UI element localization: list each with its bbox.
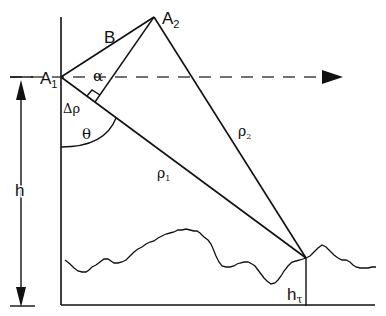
- rho1-line: [61, 77, 306, 258]
- label-delta-rho: Δρ: [63, 101, 80, 116]
- h-arrow-down-icon: [16, 287, 26, 307]
- baseline-B: [61, 17, 154, 77]
- label-rho2: ρ2: [238, 123, 251, 141]
- label-B: B: [104, 28, 115, 47]
- label-rho1: ρ1: [157, 165, 170, 183]
- terrain-profile: [65, 229, 376, 284]
- label-theta: θ: [82, 125, 91, 143]
- label-alpha: α: [93, 67, 103, 85]
- rho2-line: [154, 17, 306, 258]
- dashed-arrowhead-icon: [322, 70, 343, 84]
- h-arrow-up-icon: [16, 80, 26, 100]
- label-A2: A2: [162, 9, 179, 30]
- right-angle-marker: [87, 90, 100, 96]
- label-A1: A1: [40, 69, 57, 90]
- label-h: h: [15, 181, 24, 200]
- label-h-tau: hτ: [287, 285, 303, 306]
- interferometry-geometry-diagram: A1 A2 B α Δρ θ ρ1 ρ2 h hτ: [0, 0, 386, 316]
